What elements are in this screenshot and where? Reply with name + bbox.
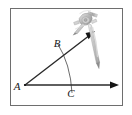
- vertex-label-a: A: [13, 80, 21, 92]
- point-label-b: B: [54, 37, 61, 49]
- geometry-figure: A B C: [0, 0, 132, 115]
- figure-canvas: A B C: [0, 0, 132, 115]
- point-label-c: C: [67, 87, 75, 99]
- vertex-point-a: [24, 84, 26, 86]
